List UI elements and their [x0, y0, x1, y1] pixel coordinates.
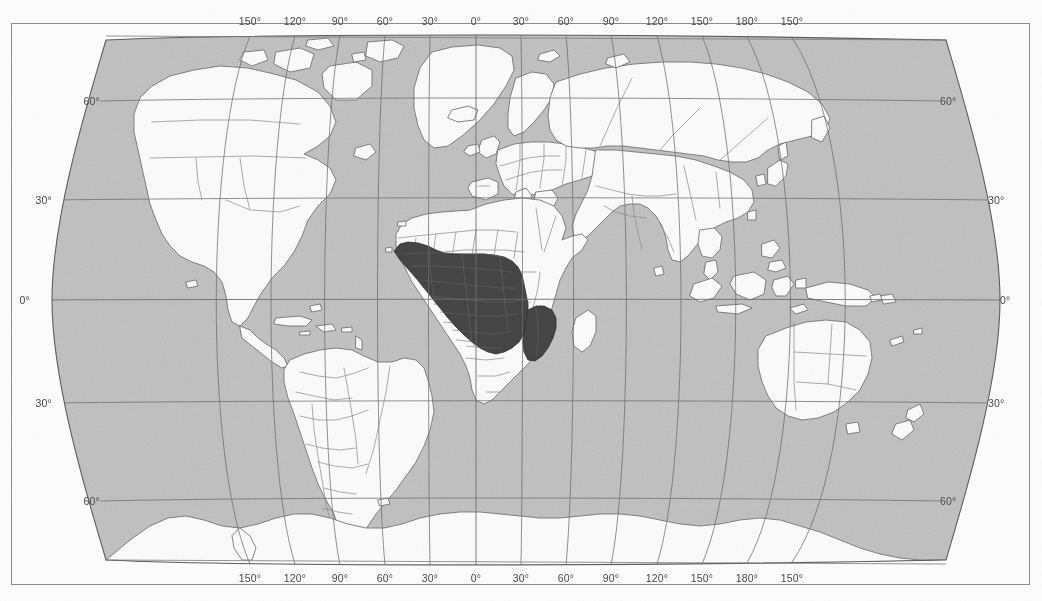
landmass-canary — [398, 221, 406, 226]
latitude-label-right-3: 30° — [988, 398, 1004, 409]
longitude-label-bottom-5: 0° — [471, 573, 481, 584]
longitude-label-top-7: 60° — [558, 16, 574, 27]
longitude-label-top-3: 60° — [377, 16, 393, 27]
latitude-label-left-0: 60° — [84, 96, 100, 107]
longitude-label-top-10: 150° — [691, 16, 714, 27]
longitude-label-top-6: 30° — [513, 16, 529, 27]
longitude-label-top-4: 30° — [422, 16, 438, 27]
landmass-halmahera — [796, 278, 806, 288]
longitude-label-bottom-0: 150° — [239, 573, 262, 584]
landmass-tasmania — [846, 422, 860, 434]
longitude-label-top-0: 150° — [239, 16, 262, 27]
map-canvas — [0, 0, 1042, 601]
world-distribution-map-figure: 150°120°90°60°30°0°30°60°90°120°150°180°… — [0, 0, 1042, 601]
longitude-label-bottom-2: 90° — [332, 573, 348, 584]
longitude-label-top-11: 180° — [736, 16, 759, 27]
landmass-taiwan — [748, 210, 756, 220]
longitude-label-bottom-6: 30° — [513, 573, 529, 584]
longitude-label-bottom-9: 120° — [646, 573, 669, 584]
longitude-label-top-9: 120° — [646, 16, 669, 27]
landmass-jamaica — [300, 331, 310, 335]
landmass-puerto-rico — [342, 327, 352, 332]
longitude-label-bottom-4: 30° — [422, 573, 438, 584]
latitude-label-right-2: 0° — [1000, 295, 1010, 306]
latitude-label-right-4: 60° — [940, 496, 956, 507]
latitude-label-right-1: 30° — [988, 195, 1004, 206]
longitude-label-bottom-11: 180° — [736, 573, 759, 584]
longitude-label-top-5: 0° — [471, 16, 481, 27]
longitude-label-bottom-7: 60° — [558, 573, 574, 584]
longitude-label-bottom-12: 150° — [781, 573, 804, 584]
longitude-label-bottom-1: 120° — [284, 573, 307, 584]
landmass-sri-lanka — [654, 266, 664, 276]
latitude-label-right-0: 60° — [940, 96, 956, 107]
latitude-label-left-2: 0° — [20, 295, 30, 306]
landmass-cape-verde — [386, 247, 392, 252]
landmass-arctic-islet-b — [352, 52, 366, 62]
landmass-korea — [756, 174, 766, 186]
latitude-label-left-1: 30° — [36, 195, 52, 206]
latitude-label-left-4: 60° — [84, 496, 100, 507]
longitude-label-top-8: 90° — [603, 16, 619, 27]
longitude-label-top-12: 150° — [781, 16, 804, 27]
longitude-label-top-1: 120° — [284, 16, 307, 27]
longitude-label-bottom-3: 60° — [377, 573, 393, 584]
longitude-label-top-2: 90° — [332, 16, 348, 27]
longitude-label-bottom-8: 90° — [603, 573, 619, 584]
latitude-label-left-3: 30° — [36, 398, 52, 409]
longitude-label-bottom-10: 150° — [691, 573, 714, 584]
